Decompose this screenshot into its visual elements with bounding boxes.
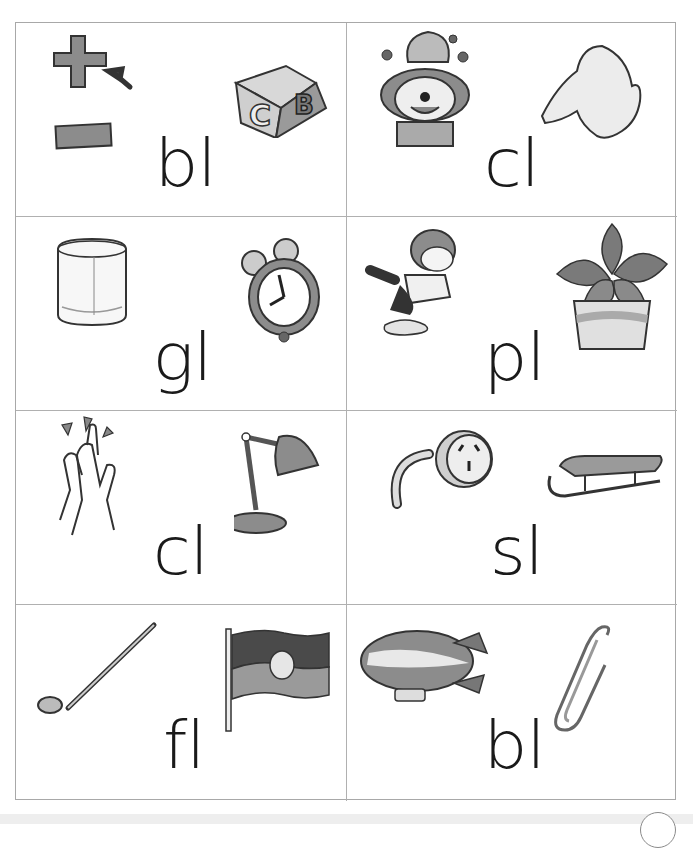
- glass-icon: [54, 237, 134, 327]
- blend-label: sl: [490, 519, 543, 585]
- plus-minus-icon: [52, 33, 152, 153]
- blend-label: gl: [153, 325, 212, 391]
- claw-hand-icon: [537, 41, 647, 141]
- blend-label: pl: [484, 325, 545, 391]
- svg-text:C: C: [249, 98, 271, 133]
- sled-icon: [545, 451, 665, 506]
- svg-text:B: B: [294, 90, 314, 120]
- blend-label: fl: [163, 713, 205, 779]
- blend-label: cl: [484, 131, 539, 197]
- flashcard-bl-2: bl: [347, 605, 677, 801]
- flashcard-bl-1: C B bl: [16, 23, 347, 217]
- clown-icon: [373, 27, 478, 147]
- page-number-circle: [640, 812, 676, 848]
- flashcard-cl-2: cl: [16, 411, 347, 605]
- blimp-icon: [359, 623, 489, 708]
- blend-label: cl: [153, 519, 208, 585]
- potted-plant-icon: [552, 219, 672, 354]
- power-plug-icon: [389, 429, 499, 514]
- flag-icon: [224, 627, 334, 732]
- alphabet-block-icon: C B: [231, 48, 331, 138]
- blend-label: bl: [484, 713, 545, 779]
- flashcard-grid: C B bl cl: [15, 22, 676, 800]
- clapping-hands-icon: [52, 415, 142, 540]
- flashcard-cl-1: cl: [347, 23, 677, 217]
- boy-splashing-icon: [365, 225, 475, 340]
- footer-strip: [0, 814, 693, 824]
- flashcard-pl: pl: [347, 217, 677, 411]
- flashcard-sl: sl: [347, 411, 677, 605]
- flashcard-fl: fl: [16, 605, 347, 801]
- desk-lamp-icon: [234, 425, 326, 535]
- blend-label: bl: [155, 131, 216, 197]
- golf-club-icon: [36, 620, 161, 715]
- alarm-clock-icon: [236, 235, 326, 345]
- flashcard-gl: gl: [16, 217, 347, 411]
- paper-clip-icon: [547, 625, 617, 735]
